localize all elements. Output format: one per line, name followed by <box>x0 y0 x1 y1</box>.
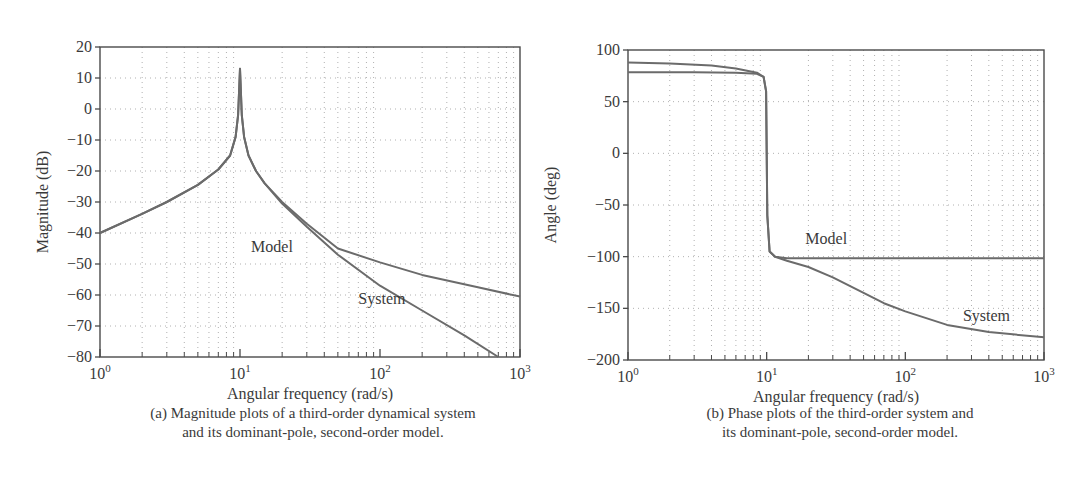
y-tick-label: 100 <box>596 41 620 58</box>
y-tick-label: −50 <box>595 196 620 213</box>
caption-magnitude-line2: and its dominant-pole, second-order mode… <box>108 423 518 442</box>
caption-magnitude: (a) Magnitude plots of a third-order dyn… <box>108 404 518 442</box>
x-tick-label: 101 <box>756 365 778 385</box>
y-tick-label: 0 <box>612 144 620 161</box>
y-tick-label: 0 <box>84 100 92 117</box>
x-tick-label: 103 <box>1033 365 1055 385</box>
x-tick-label: 102 <box>895 365 917 385</box>
y-tick-label: −20 <box>67 162 92 179</box>
magnitude-plot: 20100−10−20−30−40−50−60−70−8010010110210… <box>34 38 531 403</box>
y-tick-label: 10 <box>76 69 92 86</box>
y-tick-label: 20 <box>76 38 92 55</box>
series-system-curve <box>100 69 498 357</box>
x-tick-label: 102 <box>369 362 391 382</box>
y-tick-label: −150 <box>587 299 620 316</box>
y-tick-label: −60 <box>67 286 92 303</box>
series-model-curve <box>100 69 520 297</box>
x-tick-label: 100 <box>89 362 111 382</box>
series-system-curve <box>628 62 1044 337</box>
y-tick-label: −200 <box>587 351 620 368</box>
y-tick-label: −10 <box>67 131 92 148</box>
caption-phase-line2: its dominant-pole, second-order model. <box>630 423 1050 442</box>
caption-phase: (b) Phase plots of the third-order syste… <box>630 404 1050 442</box>
series-system-label: System <box>358 290 406 308</box>
x-tick-label: 101 <box>229 362 251 382</box>
phase-plot: 100500−50−100−150−200100101102103ModelSy… <box>542 41 1055 406</box>
series-system-label: System <box>963 307 1011 325</box>
caption-magnitude-line1: (a) Magnitude plots of a third-order dyn… <box>108 404 518 423</box>
x-axis-label: Angular frequency (rad/s) <box>227 385 393 403</box>
caption-phase-line1: (b) Phase plots of the third-order syste… <box>630 404 1050 423</box>
series-model-label: Model <box>251 238 293 255</box>
x-tick-label: 103 <box>509 362 531 382</box>
y-tick-label: 50 <box>604 93 620 110</box>
y-tick-label: −100 <box>587 248 620 265</box>
y-axis-label: Angle (deg) <box>542 167 560 244</box>
y-tick-label: −50 <box>67 255 92 272</box>
x-tick-label: 100 <box>617 365 639 385</box>
y-tick-label: −30 <box>67 193 92 210</box>
series-model-label: Model <box>805 230 847 247</box>
y-axis-label: Magnitude (dB) <box>34 151 52 254</box>
y-tick-label: −80 <box>67 348 92 365</box>
y-tick-label: −40 <box>67 224 92 241</box>
y-tick-label: −70 <box>67 317 92 334</box>
